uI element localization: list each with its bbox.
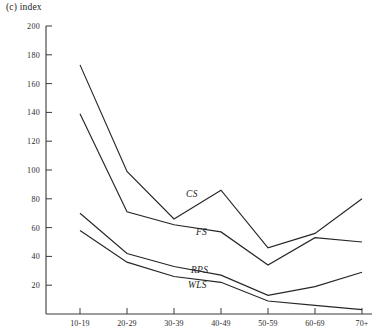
y-tick-label: 200 (27, 22, 40, 31)
y-tick-label: 120 (27, 137, 40, 146)
line-chart-plot: 20406080100120140160180200 10-1920-2930-… (0, 0, 377, 333)
y-tick-label: 80 (31, 195, 40, 204)
x-tick-label: 30-39 (164, 319, 184, 328)
y-tick-label: 140 (27, 108, 40, 117)
series-line-fs (80, 114, 362, 265)
series-label-wls: WLS (188, 280, 207, 290)
x-tick-label: 70+ (355, 319, 368, 328)
y-tick-label: 60 (31, 224, 40, 233)
series-line-rps (80, 213, 362, 295)
series-line-wls (80, 230, 362, 309)
chart-container: (c) index 20406080100120140160180200 10-… (0, 0, 377, 333)
x-axis: 10-1920-2930-3940-4950-5960-6970+ (46, 308, 372, 328)
x-tick-label: 40-49 (211, 319, 231, 328)
series-label-fs: FS (195, 227, 207, 237)
series-line-cs (80, 65, 362, 248)
y-tick-label: 20 (31, 281, 40, 290)
series-label-cs: CS (186, 189, 198, 199)
x-tick-label: 50-59 (258, 319, 278, 328)
y-tick-label: 180 (27, 51, 40, 60)
x-tick-label: 10-19 (70, 319, 90, 328)
x-tick-label: 20-29 (117, 319, 137, 328)
x-tick-label: 60-69 (305, 319, 325, 328)
y-tick-label: 160 (27, 80, 40, 89)
y-axis: 20406080100120140160180200 (27, 22, 52, 314)
series-lines (80, 65, 362, 310)
y-tick-label: 100 (27, 166, 40, 175)
series-label-rps: RPS (190, 265, 208, 275)
y-tick-label: 40 (31, 252, 40, 261)
